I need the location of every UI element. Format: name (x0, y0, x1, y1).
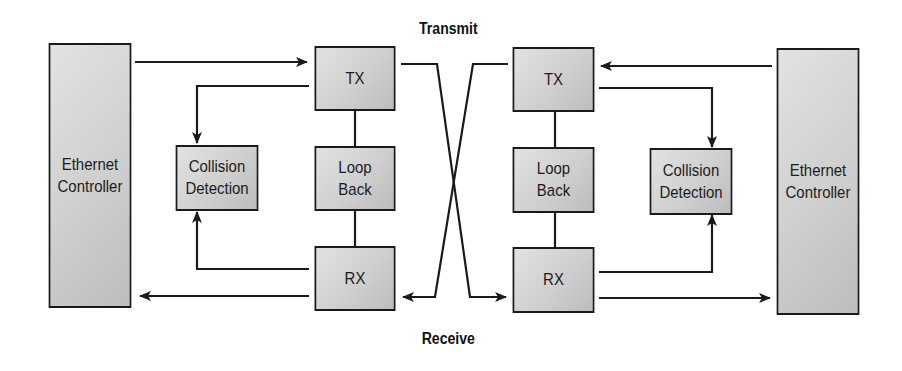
ethernet-transceiver-diagram: Transmit Receive Ethernet Controller Col… (0, 0, 902, 371)
transmit-label: Transmit (419, 20, 478, 38)
right-collision-line1: Collision (659, 160, 722, 182)
left-collision-detection: Collision Detection (176, 145, 259, 211)
right-collision-detection: Collision Detection (650, 148, 733, 215)
right-collision-line2: Detection (659, 182, 722, 204)
left-loopback-box: Loop Back (315, 146, 396, 211)
left-rx-box: RX (315, 246, 396, 311)
right-controller-line1: Ethernet (786, 160, 851, 182)
left-loopback-line2: Back (338, 179, 371, 201)
left-rx-label: RX (345, 268, 366, 290)
left-collision-line1: Collision (185, 156, 248, 178)
left-tx-box: TX (315, 46, 396, 111)
right-loopback-box: Loop Back (513, 147, 595, 213)
left-ethernet-controller: Ethernet Controller (49, 43, 132, 308)
right-ethernet-controller: Ethernet Controller (777, 48, 860, 315)
right-tx-label: TX (544, 69, 563, 91)
left-controller-line2: Controller (58, 176, 123, 198)
right-loopback-line1: Loop (537, 158, 570, 180)
right-controller-line2: Controller (786, 182, 851, 204)
left-collision-line2: Detection (185, 178, 248, 200)
right-rx-label: RX (543, 269, 564, 291)
left-controller-line1: Ethernet (58, 154, 123, 176)
receive-label: Receive (422, 330, 475, 348)
left-tx-label: TX (345, 68, 364, 90)
left-loopback-line1: Loop (338, 157, 371, 179)
right-rx-box: RX (513, 247, 595, 313)
connector-lines (0, 0, 902, 371)
right-loopback-line2: Back (537, 180, 570, 202)
right-tx-box: TX (513, 47, 595, 112)
